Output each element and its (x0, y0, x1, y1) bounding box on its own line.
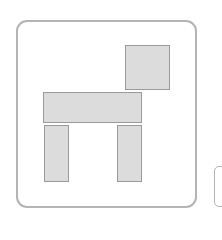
head-block (125, 45, 170, 90)
body-block (43, 92, 142, 123)
next-tile-partial[interactable] (214, 166, 222, 207)
right-leg-block (117, 125, 142, 182)
left-leg-block (44, 125, 69, 182)
